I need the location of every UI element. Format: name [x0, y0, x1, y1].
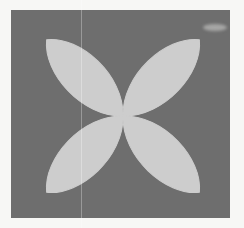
figure-container — [0, 0, 244, 228]
rose-curve-plot — [0, 0, 244, 228]
